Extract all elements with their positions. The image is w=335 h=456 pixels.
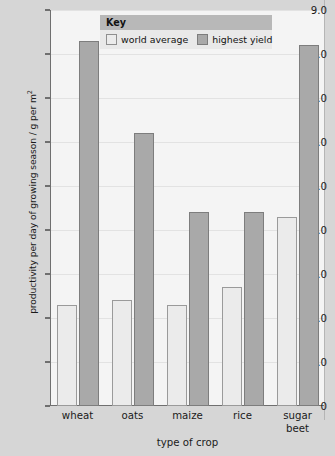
y-axis-title-text: productivity per day of growing season /… [27, 94, 38, 314]
bar-maize-highest-yield [189, 212, 209, 406]
bar-chart: productivity per day of growing season /… [0, 0, 335, 456]
y-axis-tick-mark [45, 361, 50, 362]
bar-oats-highest-yield [134, 133, 154, 406]
x-axis-label-rice: rice [215, 410, 270, 423]
bar-rice-world-average [222, 287, 242, 406]
x-axis-label-wheat: wheat [50, 410, 105, 423]
y-axis-tick-mark [45, 141, 50, 142]
legend: Key world averagehighest yield [100, 15, 272, 49]
y-axis-tick-mark [45, 53, 50, 54]
y-axis-tick-mark [45, 9, 50, 10]
y-axis-tick-mark [45, 185, 50, 186]
legend-item-world-average: world average [106, 34, 188, 45]
legend-label: world average [121, 34, 188, 45]
y-axis-title-superscript: 2 [26, 90, 34, 94]
y-axis-tick-mark [45, 317, 50, 318]
legend-item-highest-yield: highest yield [197, 34, 272, 45]
legend-swatch-icon [197, 34, 208, 45]
bar-wheat-world-average [57, 305, 77, 406]
y-axis-tick-mark [45, 229, 50, 230]
x-axis-label-sugar-beet: sugarbeet [270, 410, 325, 435]
legend-title: Key [100, 15, 272, 30]
y-axis-tick-mark [45, 97, 50, 98]
y-axis-tick-label: 9.0 [291, 5, 335, 16]
legend-items: world averagehighest yield [100, 30, 272, 49]
bar-wheat-highest-yield [79, 41, 99, 406]
x-axis-title: type of crop [50, 437, 325, 448]
gridline [51, 10, 325, 11]
y-axis-title: productivity per day of growing season /… [26, 52, 38, 352]
bar-maize-world-average [167, 305, 187, 406]
y-axis-tick-mark [45, 273, 50, 274]
legend-label: highest yield [212, 34, 272, 45]
legend-swatch-icon [106, 34, 117, 45]
bar-sugar-beet-highest-yield [299, 45, 319, 406]
x-axis-label-maize: maize [160, 410, 215, 423]
y-axis-tick-mark [45, 405, 50, 406]
x-axis-label-oats: oats [105, 410, 160, 423]
bar-oats-world-average [112, 300, 132, 406]
bar-sugar-beet-world-average [277, 217, 297, 406]
bar-rice-highest-yield [244, 212, 264, 406]
